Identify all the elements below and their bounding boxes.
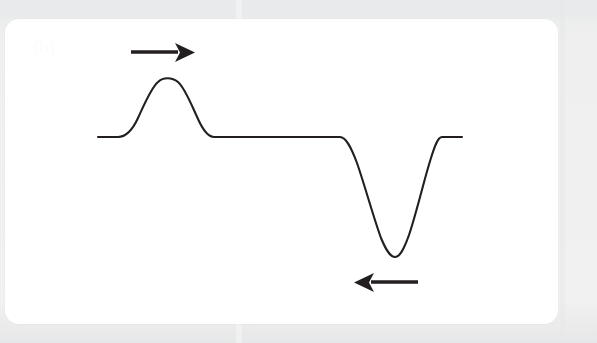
figure-root: (b) (0, 0, 597, 343)
leftward-propagation-arrow (354, 273, 418, 292)
string-waveform-path (98, 78, 462, 257)
wave-plot-svg (0, 0, 597, 343)
string-displacement-curve (98, 78, 462, 257)
rightward-propagation-arrow (131, 43, 195, 62)
